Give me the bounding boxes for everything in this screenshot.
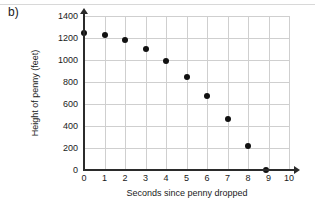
x-tick-label: 0	[77, 173, 91, 183]
gridline-horizontal	[84, 82, 289, 83]
y-tick-label: 200	[44, 144, 78, 153]
x-tick-label: 2	[118, 173, 132, 183]
x-tick-label: 7	[221, 173, 235, 183]
y-tick-label: 800	[44, 78, 78, 87]
data-point	[225, 116, 231, 122]
panel-label: b)	[8, 6, 19, 19]
gridline-horizontal	[84, 16, 289, 17]
x-tick-label: 9	[262, 173, 276, 183]
x-tick-label: 1	[98, 173, 112, 183]
gridline-horizontal	[84, 104, 289, 105]
gridline-vertical	[269, 16, 270, 170]
gridline-vertical	[289, 16, 290, 170]
y-axis-arrow-icon	[80, 8, 88, 14]
y-axis-line	[83, 13, 85, 171]
data-point	[143, 46, 149, 52]
gridline-vertical	[166, 16, 167, 170]
x-tick-label: 6	[200, 173, 214, 183]
gridline-horizontal	[84, 60, 289, 61]
data-point	[184, 74, 190, 80]
gridline-vertical	[228, 16, 229, 170]
y-tick-label: 1400	[44, 12, 78, 21]
x-tick-label: 3	[139, 173, 153, 183]
plot-area	[84, 16, 289, 170]
x-tick-label: 5	[180, 173, 194, 183]
data-point	[102, 32, 108, 38]
y-tick-label: 1000	[44, 56, 78, 65]
x-tick-label: 4	[159, 173, 173, 183]
x-axis-line	[83, 169, 295, 171]
x-tick-label: 8	[241, 173, 255, 183]
y-axis-title: Height of penny (feet)	[30, 27, 40, 159]
x-tick-label: 10	[282, 173, 296, 183]
gridline-vertical	[187, 16, 188, 170]
data-point	[122, 37, 128, 43]
y-tick-label: 600	[44, 100, 78, 109]
gridline-vertical	[146, 16, 147, 170]
figure-panel-b: b) Height of penny (feet) Seconds since …	[0, 0, 315, 207]
y-tick-label: 400	[44, 122, 78, 131]
gridline-horizontal	[84, 38, 289, 39]
y-axis-ticks: 0200400600800100012001400	[44, 0, 78, 207]
gridline-horizontal	[84, 148, 289, 149]
data-point	[163, 58, 169, 64]
gridline-horizontal	[84, 126, 289, 127]
y-tick-label: 1200	[44, 34, 78, 43]
x-axis-title: Seconds since penny dropped	[83, 188, 291, 198]
gridline-vertical	[105, 16, 106, 170]
y-tick-label: 0	[44, 166, 78, 175]
data-point	[204, 93, 210, 99]
